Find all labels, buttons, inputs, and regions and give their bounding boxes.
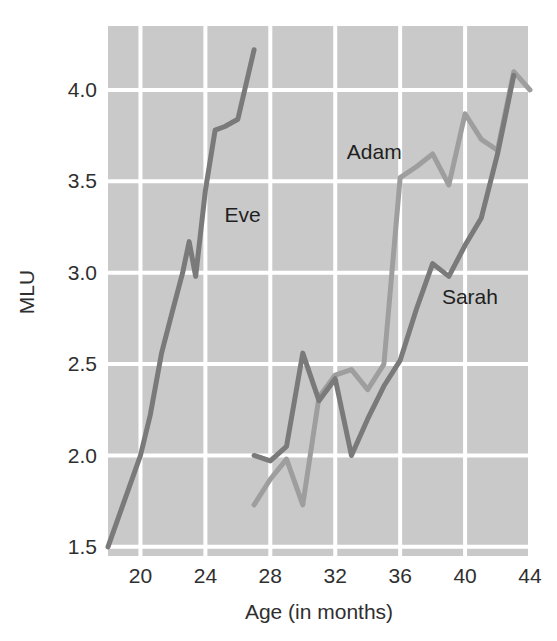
x-tick-label: 20 bbox=[129, 564, 152, 587]
x-tick-label: 32 bbox=[324, 564, 347, 587]
x-axis-tick-labels: 20242832364044 bbox=[129, 564, 542, 587]
x-tick-label: 44 bbox=[518, 564, 542, 587]
y-axis-title: MLU bbox=[15, 270, 38, 314]
x-tick-label: 36 bbox=[389, 564, 412, 587]
y-tick-label: 1.5 bbox=[68, 535, 97, 558]
series-label-eve: Eve bbox=[225, 203, 261, 226]
y-tick-label: 2.5 bbox=[68, 352, 97, 375]
x-tick-label: 24 bbox=[194, 564, 218, 587]
y-tick-label: 3.5 bbox=[68, 169, 97, 192]
x-tick-label: 28 bbox=[259, 564, 282, 587]
y-tick-label: 3.0 bbox=[68, 261, 97, 284]
y-tick-label: 2.0 bbox=[68, 444, 97, 467]
chart-canvas: EveAdamSarah 20242832364044 1.52.02.53.0… bbox=[0, 0, 557, 641]
x-tick-label: 40 bbox=[453, 564, 476, 587]
series-label-sarah: Sarah bbox=[442, 285, 498, 308]
series-label-adam: Adam bbox=[347, 140, 402, 163]
x-axis-title: Age (in months) bbox=[245, 600, 393, 623]
y-tick-label: 4.0 bbox=[68, 78, 97, 101]
y-axis-tick-labels: 1.52.02.53.03.54.0 bbox=[68, 78, 97, 558]
mlu-age-chart: EveAdamSarah 20242832364044 1.52.02.53.0… bbox=[0, 0, 557, 641]
